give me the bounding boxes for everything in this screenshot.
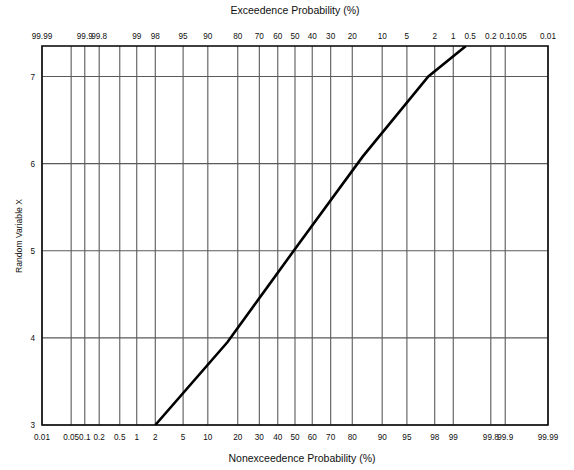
top-tick-label: 0.1	[500, 32, 512, 41]
bottom-tick-label: 95	[402, 433, 412, 442]
top-tick-label: 95	[179, 32, 189, 41]
bottom-tick-label: 0.2	[94, 433, 106, 442]
bottom-tick-label: 20	[233, 433, 243, 442]
top-tick-label: 80	[233, 32, 243, 41]
y-tick-label: 5	[30, 247, 35, 256]
top-tick-label: 30	[326, 32, 336, 41]
probability-plot-chart: Exceedence Probability (%) Nonexceedence…	[0, 0, 574, 470]
top-tick-label: 10	[378, 32, 388, 41]
y-tick-label: 7	[30, 73, 35, 82]
bottom-tick-label: 40	[273, 433, 283, 442]
y-tick-label: 4	[30, 334, 35, 343]
bottom-tick-label: 70	[326, 433, 336, 442]
top-tick-label: 98	[151, 32, 161, 41]
top-tick-label: 99.8	[91, 32, 107, 41]
bottom-tick-label: 99.9	[497, 433, 513, 442]
top-axis-title: Exceedence Probability (%)	[231, 4, 360, 16]
bottom-tick-label: 90	[378, 433, 388, 442]
bottom-tick-label: 10	[203, 433, 213, 442]
bottom-tick-label: 99.99	[538, 433, 559, 442]
y-tick-label: 3	[30, 421, 35, 430]
bottom-tick-label: 50	[290, 433, 300, 442]
bottom-tick-label: 60	[308, 433, 318, 442]
bottom-tick-label: 1	[134, 433, 139, 442]
top-tick-label: 90	[203, 32, 213, 41]
bottom-tick-label: 0.5	[114, 433, 126, 442]
chart-canvas: Exceedence Probability (%) Nonexceedence…	[0, 0, 574, 470]
top-tick-label: 0.2	[485, 32, 497, 41]
bottom-tick-label: 99	[449, 433, 459, 442]
top-tick-label: 70	[255, 32, 265, 41]
chart-background	[0, 0, 574, 470]
top-tick-label: 40	[308, 32, 318, 41]
bottom-axis-title: Nonexceedence Probability (%)	[228, 452, 375, 464]
top-tick-label: 0.5	[465, 32, 477, 41]
top-tick-label: 50	[290, 32, 300, 41]
bottom-tick-label: 0.1	[79, 433, 91, 442]
top-tick-label: 60	[273, 32, 283, 41]
top-tick-label: 2	[432, 32, 437, 41]
bottom-tick-label: 2	[153, 433, 158, 442]
top-tick-label: 0.01	[540, 32, 556, 41]
top-tick-label: 0.05	[511, 32, 527, 41]
bottom-tick-label: 30	[255, 433, 265, 442]
bottom-tick-label: 5	[181, 433, 186, 442]
top-tick-label: 99.99	[32, 32, 53, 41]
top-tick-label: 99	[132, 32, 142, 41]
bottom-tick-label: 0.05	[63, 433, 79, 442]
bottom-tick-label: 98	[430, 433, 440, 442]
bottom-tick-label: 80	[348, 433, 358, 442]
y-tick-label: 6	[30, 160, 35, 169]
left-axis-title: Random Variable X	[14, 199, 24, 273]
bottom-tick-label: 0.01	[34, 433, 50, 442]
top-tick-label: 1	[451, 32, 456, 41]
top-tick-label: 5	[405, 32, 410, 41]
top-tick-label: 20	[348, 32, 358, 41]
